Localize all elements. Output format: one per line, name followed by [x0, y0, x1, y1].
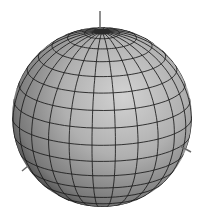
sphere-plot: [0, 0, 205, 219]
x-axis-line: [22, 166, 28, 171]
north-pole-cap: [93, 29, 111, 35]
sphere-figure: [0, 0, 205, 219]
